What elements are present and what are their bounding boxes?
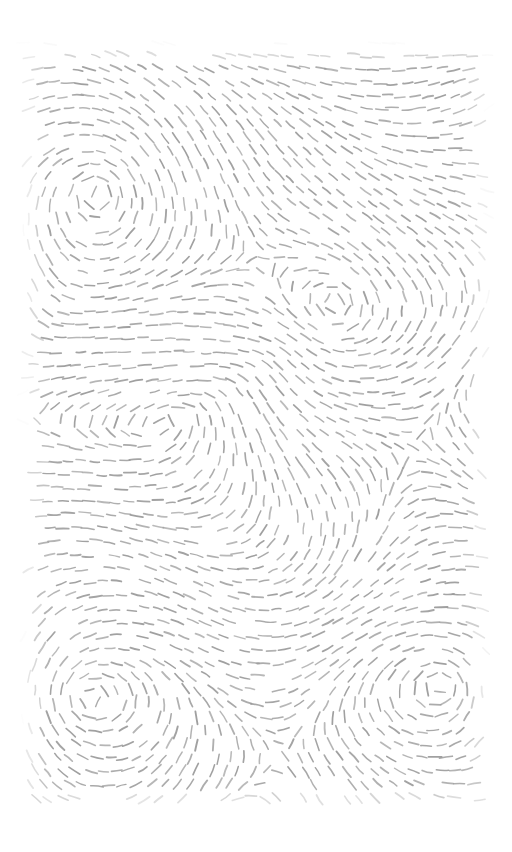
dash-stroke: [70, 313, 82, 314]
dash-stroke: [466, 683, 467, 696]
dash-stroke: [332, 712, 333, 724]
dash-stroke: [82, 337, 95, 338]
dash-stroke: [258, 635, 271, 636]
dash-stroke: [71, 555, 81, 556]
dash-stroke: [99, 364, 108, 365]
dash-stroke: [85, 285, 95, 286]
dash-stroke: [483, 55, 493, 56]
dash-stroke: [55, 337, 66, 338]
dash-stroke: [356, 69, 366, 70]
dash-stroke: [395, 97, 405, 98]
dash-stroke: [23, 225, 24, 236]
dash-stroke: [122, 339, 134, 340]
dash-stroke: [105, 648, 115, 649]
dash-stroke: [415, 682, 416, 695]
dash-stroke: [89, 678, 101, 679]
dash-stroke: [76, 460, 85, 461]
dash-stroke: [31, 500, 44, 501]
dash-stroke: [213, 739, 214, 750]
dash-stroke: [478, 280, 479, 290]
dash-stroke: [442, 782, 453, 783]
dash-stroke: [77, 541, 88, 542]
dash-stroke: [454, 55, 467, 56]
dash-stroke: [259, 754, 260, 764]
dash-stroke: [389, 404, 400, 405]
dash-stroke: [402, 306, 403, 316]
dash-stroke: [29, 364, 38, 365]
dash-stroke: [321, 524, 322, 536]
dash-stroke: [417, 461, 426, 462]
dash-stroke: [251, 675, 264, 676]
dash-stroke: [172, 407, 185, 408]
dash-stroke: [434, 150, 445, 151]
dash-stroke: [142, 198, 143, 209]
artwork-canvas: [0, 0, 512, 852]
dash-stroke: [408, 123, 421, 124]
dash-stroke: [372, 305, 373, 315]
dash-stroke: [230, 752, 231, 762]
dash-stroke: [346, 350, 356, 351]
dash-stroke: [49, 462, 61, 463]
dash-stroke: [166, 502, 175, 503]
dash-stroke: [91, 164, 100, 165]
dash-stroke: [333, 324, 343, 325]
dash-stroke: [387, 308, 388, 319]
dash-stroke: [178, 312, 188, 313]
dash-stroke: [454, 138, 463, 139]
dash-stroke: [76, 352, 85, 353]
artwork-background: [0, 0, 512, 852]
dash-stroke: [50, 685, 51, 694]
dash-stroke: [38, 352, 51, 353]
dash-stroke: [238, 568, 248, 569]
dash-stroke: [139, 473, 148, 474]
dash-stroke: [344, 710, 345, 722]
dash-stroke: [72, 501, 83, 502]
dash-stroke: [450, 556, 460, 557]
dash-stroke: [455, 540, 467, 541]
dash-stroke: [274, 43, 286, 44]
dash-stroke: [146, 325, 158, 326]
dash-stroke: [185, 326, 198, 327]
dash-stroke: [245, 796, 256, 797]
dash-stroke: [64, 107, 73, 108]
dash-stroke: [393, 70, 405, 71]
dash-stroke: [138, 365, 151, 366]
dash-stroke: [436, 770, 449, 771]
dash-stroke: [138, 501, 150, 502]
dash-stroke: [469, 163, 479, 164]
dash-stroke: [367, 70, 378, 71]
dash-stroke: [325, 723, 326, 734]
dash-stroke: [63, 461, 73, 462]
dash-stroke: [341, 68, 351, 69]
dash-stroke: [200, 327, 211, 328]
dash-stroke: [274, 257, 284, 258]
dash-stroke: [449, 527, 462, 528]
dash-stroke: [68, 337, 80, 338]
dash-stroke: [266, 622, 277, 623]
dash-stroke: [205, 210, 206, 220]
dash-stroke: [105, 352, 116, 353]
dash-stroke: [90, 327, 99, 328]
dash-stroke: [361, 57, 371, 58]
dash-stroke: [206, 312, 215, 313]
dash-stroke: [89, 485, 102, 486]
dash-stroke: [130, 323, 141, 324]
dash-stroke: [426, 57, 437, 58]
dash-stroke: [45, 527, 55, 528]
dash-stroke: [164, 699, 165, 711]
dash-stroke: [191, 366, 204, 367]
dash-stroke: [436, 500, 446, 501]
dash-stroke: [44, 366, 54, 367]
dash-stroke: [109, 365, 120, 366]
dash-stroke: [252, 470, 253, 481]
dash-stroke: [145, 485, 155, 486]
dash-stroke: [95, 338, 107, 339]
dash-stroke: [393, 123, 402, 124]
dash-stroke: [204, 339, 216, 340]
dash-stroke: [110, 339, 122, 340]
dash-stroke: [213, 352, 224, 353]
dash-stroke: [36, 516, 47, 517]
dash-stroke: [466, 566, 479, 567]
dash-stroke: [243, 751, 244, 762]
dash-stroke: [82, 557, 93, 558]
